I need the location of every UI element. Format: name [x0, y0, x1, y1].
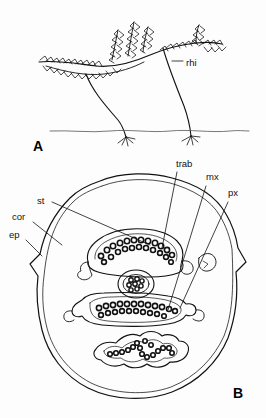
label-mx: mx — [206, 171, 219, 182]
panel-letter-a: A — [33, 138, 43, 154]
figure-background — [0, 0, 266, 418]
label-rhi: rhi — [186, 57, 197, 68]
label-trab: trab — [176, 158, 192, 169]
label-px: px — [228, 187, 238, 198]
figure-plate: rhi A — [0, 0, 266, 418]
panel-letter-b: B — [233, 385, 243, 401]
label-st: st — [37, 195, 45, 206]
label-ep: ep — [9, 229, 20, 240]
label-cor: cor — [12, 211, 25, 222]
